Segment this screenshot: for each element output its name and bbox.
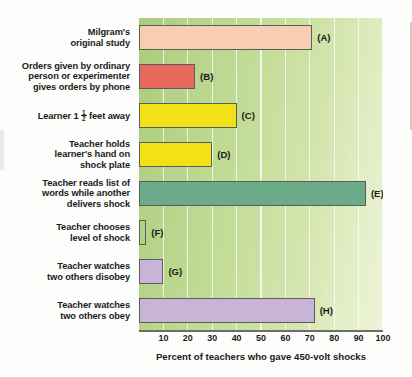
x-tick-90: 90 xyxy=(354,333,364,343)
bar-F xyxy=(139,220,146,245)
x-axis-label: Percent of teachers who gave 450-volt sh… xyxy=(139,351,383,362)
x-tick-10: 10 xyxy=(158,333,168,343)
bar-letter-H: (H) xyxy=(320,305,333,316)
category-label-H: Teacher watchestwo others obey xyxy=(0,300,134,321)
gridline-60 xyxy=(285,18,286,330)
category-label-E: Teacher reads list ofwords while another… xyxy=(0,178,134,210)
category-label-line: level of shock xyxy=(70,233,130,243)
category-label-line: Orders given by ordinary xyxy=(22,61,130,71)
category-label-line: learner's hand on xyxy=(55,149,130,159)
category-label-line: original study xyxy=(70,38,130,48)
category-label-F: Teacher chooseslevel of shock xyxy=(0,222,134,243)
category-label-C: Learner 1 12 feet away xyxy=(0,110,134,122)
bar-letter-C: (C) xyxy=(242,110,255,121)
x-axis-ticks: 102030405060708090100 xyxy=(139,333,383,347)
category-label-line: person or experimenter xyxy=(28,71,130,81)
category-label-text: Learner 1 12 feet away xyxy=(38,111,130,121)
bar-A xyxy=(139,25,312,50)
gridline-90 xyxy=(358,18,359,330)
bar-letter-A: (A) xyxy=(317,32,330,43)
category-label-line: Teacher chooses xyxy=(56,222,130,232)
x-tick-60: 60 xyxy=(280,333,290,343)
category-label-line: Teacher holds xyxy=(69,139,130,149)
x-tick-50: 50 xyxy=(256,333,266,343)
x-tick-20: 20 xyxy=(183,333,193,343)
category-label-line: delivers shock xyxy=(67,199,130,209)
category-label-line: words while another xyxy=(42,188,130,198)
bar-letter-B: (B) xyxy=(200,71,213,82)
bar-B xyxy=(139,64,195,89)
category-label-line: shock plate xyxy=(80,160,130,170)
bar-E xyxy=(139,181,366,206)
category-label-line: Teacher watches xyxy=(57,261,130,271)
bar-letter-F: (F) xyxy=(151,227,163,238)
x-tick-40: 40 xyxy=(232,333,242,343)
category-label-line: two others disobey xyxy=(47,272,130,282)
fraction-one-half: 12 xyxy=(81,110,86,122)
bar-D xyxy=(139,142,212,167)
category-label-G: Teacher watchestwo others disobey xyxy=(0,261,134,282)
gridline-30 xyxy=(212,18,213,330)
bar-G xyxy=(139,259,163,284)
category-label-line: Milgram's xyxy=(88,27,130,37)
category-label-line: Teacher reads list of xyxy=(42,178,130,188)
bar-chart-figure: Milgram'soriginal studyOrders given by o… xyxy=(0,0,412,377)
category-label-column: Milgram'soriginal studyOrders given by o… xyxy=(0,18,134,330)
gridline-70 xyxy=(309,18,310,330)
category-label-line: two others obey xyxy=(60,311,130,321)
bar-letter-D: (D) xyxy=(217,149,230,160)
x-tick-100: 100 xyxy=(376,333,391,343)
gridline-50 xyxy=(260,18,261,330)
bar-C xyxy=(139,103,237,128)
gridline-100 xyxy=(382,18,383,330)
x-axis-line xyxy=(139,330,383,332)
x-tick-70: 70 xyxy=(305,333,315,343)
gridline-80 xyxy=(334,18,335,330)
x-tick-80: 80 xyxy=(329,333,339,343)
plot-area: (A)(B)(C)(D)(E)(F)(G)(H) xyxy=(139,18,383,330)
bar-H xyxy=(139,298,315,323)
category-label-B: Orders given by ordinaryperson or experi… xyxy=(0,61,134,93)
bar-letter-G: (G) xyxy=(168,266,182,277)
category-label-D: Teacher holdslearner's hand onshock plat… xyxy=(0,139,134,171)
category-label-line: gives orders by phone xyxy=(33,82,130,92)
category-label-line: Teacher watches xyxy=(57,300,130,310)
category-label-A: Milgram'soriginal study xyxy=(0,27,134,48)
gridline-40 xyxy=(236,18,237,330)
bar-letter-E: (E) xyxy=(371,188,383,199)
x-tick-30: 30 xyxy=(207,333,217,343)
